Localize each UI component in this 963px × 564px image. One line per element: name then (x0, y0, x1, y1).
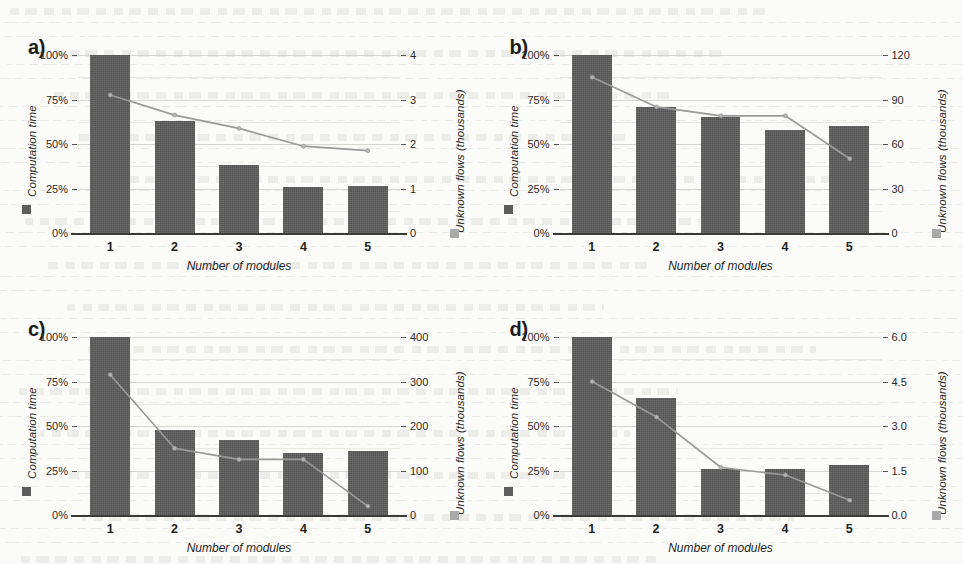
left-axis-title: Computation time (508, 388, 520, 480)
y-tick-label-left: 75% (26, 376, 68, 388)
right-axis-title: Unknown flows (thousands) (454, 89, 466, 233)
y-tick-label-right: 90 (892, 94, 932, 106)
plot-area-b: 0%25%50%75%100%030609012012345Number of … (560, 55, 882, 233)
y-tick-label-right: 0 (892, 227, 932, 239)
light-square-icon (932, 229, 941, 238)
y-tick-label-left: 75% (508, 376, 550, 388)
y-tickmark-left (72, 100, 77, 101)
left-axis-title: Computation time (26, 106, 38, 198)
y-tickmark-right (883, 144, 888, 145)
light-square-icon (450, 229, 459, 238)
x-tick-label: 3 (236, 240, 243, 254)
x-tick-label: 5 (846, 522, 853, 536)
y-tickmark-right (401, 144, 406, 145)
chart-panel-a: a)0%25%50%75%100%0123412345Number of mod… (0, 0, 482, 282)
y-tickmark-left (554, 471, 559, 472)
y-tick-label-right: 1.5 (892, 465, 932, 477)
x-axis-line (71, 233, 407, 235)
y-tickmark-right (401, 100, 406, 101)
line-series-unknown-flows (560, 55, 882, 233)
dark-square-icon (504, 205, 513, 214)
figure-panel-grid: a)0%25%50%75%100%0123412345Number of mod… (0, 0, 963, 564)
y-tick-label-left: 0% (508, 509, 550, 521)
x-tick-label: 4 (781, 522, 788, 536)
x-tick-label: 4 (300, 522, 307, 536)
y-tick-label-right: 3.0 (892, 420, 932, 432)
y-tickmark-left (554, 55, 559, 56)
y-tick-label-right: 60 (892, 138, 932, 150)
y-tick-label-right: 1 (410, 183, 450, 195)
y-tick-label-right: 0.0 (892, 509, 932, 521)
y-tickmark-left (72, 189, 77, 190)
chart-panel-d: d)0%25%50%75%100%0.01.53.04.56.012345Num… (482, 282, 963, 564)
y-tickmark-right (883, 100, 888, 101)
line-series-unknown-flows (560, 337, 882, 515)
y-tick-label-left: 100% (508, 331, 550, 343)
x-axis-title: Number of modules (560, 259, 882, 273)
y-tickmark-right (401, 426, 406, 427)
y-tickmark-right (883, 382, 888, 383)
dark-square-icon (504, 487, 513, 496)
y-tick-label-right: 4 (410, 49, 450, 61)
x-tick-label: 1 (588, 240, 595, 254)
y-tickmark-right (883, 189, 888, 190)
right-axis-title: Unknown flows (thousands) (454, 371, 466, 515)
x-axis-title: Number of modules (78, 259, 400, 273)
y-tickmark-right (401, 337, 406, 338)
plot-area-c: 0%25%50%75%100%010020030040012345Number … (78, 337, 400, 515)
y-tickmark-right (883, 426, 888, 427)
x-tick-label: 1 (107, 522, 114, 536)
y-tick-label-left: 100% (508, 49, 550, 61)
x-axis-line (553, 233, 889, 235)
x-tick-label: 4 (300, 240, 307, 254)
y-tickmark-left (554, 144, 559, 145)
y-tick-label-left: 75% (508, 94, 550, 106)
x-tick-label: 1 (588, 522, 595, 536)
right-axis-title: Unknown flows (thousands) (936, 371, 948, 515)
y-tickmark-right (401, 189, 406, 190)
x-tick-label: 2 (653, 240, 660, 254)
y-tickmark-right (401, 382, 406, 383)
x-axis-title: Number of modules (78, 541, 400, 555)
y-tickmark-left (72, 471, 77, 472)
y-tick-label-right: 200 (410, 420, 450, 432)
y-tick-label-left: 0% (508, 227, 550, 239)
x-tick-label: 5 (364, 240, 371, 254)
y-tick-label-left: 0% (26, 509, 68, 521)
y-tickmark-left (554, 337, 559, 338)
y-tickmark-right (401, 471, 406, 472)
y-tick-label-right: 300 (410, 376, 450, 388)
y-tick-label-right: 6.0 (892, 331, 932, 343)
y-tick-label-right: 2 (410, 138, 450, 150)
line-series-unknown-flows (78, 337, 400, 515)
left-axis-title: Computation time (26, 388, 38, 480)
y-tickmark-left (554, 426, 559, 427)
chart-panel-b: b)0%25%50%75%100%030609012012345Number o… (482, 0, 963, 282)
dark-square-icon (22, 487, 31, 496)
y-tickmark-left (554, 189, 559, 190)
y-tickmark-right (401, 55, 406, 56)
line-series-unknown-flows (78, 55, 400, 233)
y-tick-label-right: 0 (410, 227, 450, 239)
y-tick-label-left: 75% (26, 94, 68, 106)
x-axis-line (553, 515, 889, 517)
y-tick-label-left: 100% (26, 331, 68, 343)
right-axis-title: Unknown flows (thousands) (936, 89, 948, 233)
y-tick-label-right: 4.5 (892, 376, 932, 388)
y-tickmark-left (72, 55, 77, 56)
light-square-icon (932, 511, 941, 520)
y-tick-label-left: 100% (26, 49, 68, 61)
x-tick-label: 2 (171, 240, 178, 254)
y-tick-label-right: 400 (410, 331, 450, 343)
plot-area-d: 0%25%50%75%100%0.01.53.04.56.012345Numbe… (560, 337, 882, 515)
left-axis-title: Computation time (508, 106, 520, 198)
x-tick-label: 5 (364, 522, 371, 536)
y-tick-label-right: 120 (892, 49, 932, 61)
x-tick-label: 3 (717, 240, 724, 254)
y-tickmark-left (554, 100, 559, 101)
y-tickmark-left (72, 144, 77, 145)
x-tick-label: 3 (717, 522, 724, 536)
x-tick-label: 2 (171, 522, 178, 536)
x-tick-label: 3 (236, 522, 243, 536)
y-tickmark-left (72, 426, 77, 427)
